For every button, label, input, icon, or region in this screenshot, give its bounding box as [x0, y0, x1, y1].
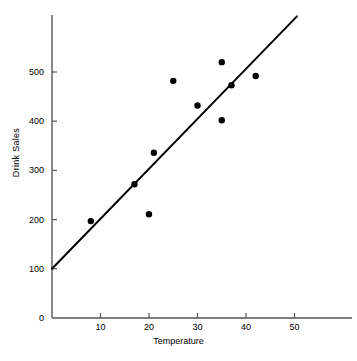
data-point [219, 117, 225, 123]
x-tick-label: 30 [192, 323, 202, 332]
data-point [88, 218, 94, 224]
x-tick-label: 50 [289, 323, 299, 332]
x-tick-label: 40 [241, 323, 251, 332]
y-tick-label: 0 [8, 314, 44, 323]
data-point [253, 73, 259, 79]
trend-line [52, 16, 297, 268]
x-tick-label: 10 [95, 323, 105, 332]
data-point [131, 181, 137, 187]
axes [52, 15, 352, 318]
y-axis-title: Drink Sales [12, 113, 21, 193]
regression-line [52, 16, 297, 268]
scatter-plot-chart: 10203040500100200300400500 Temperature D… [0, 0, 357, 361]
y-tick-label: 500 [8, 68, 44, 77]
data-point [151, 149, 157, 155]
data-point [146, 211, 152, 217]
data-point [170, 78, 176, 84]
data-point [194, 102, 200, 108]
data-points [88, 59, 259, 224]
y-tick-label: 200 [8, 215, 44, 224]
x-tick-label: 20 [144, 323, 154, 332]
axis-ticks [52, 72, 295, 318]
data-point [228, 82, 234, 88]
y-tick-label: 100 [8, 264, 44, 273]
x-axis-title: Temperature [0, 337, 357, 346]
plot-area [0, 0, 357, 361]
data-point [219, 59, 225, 65]
